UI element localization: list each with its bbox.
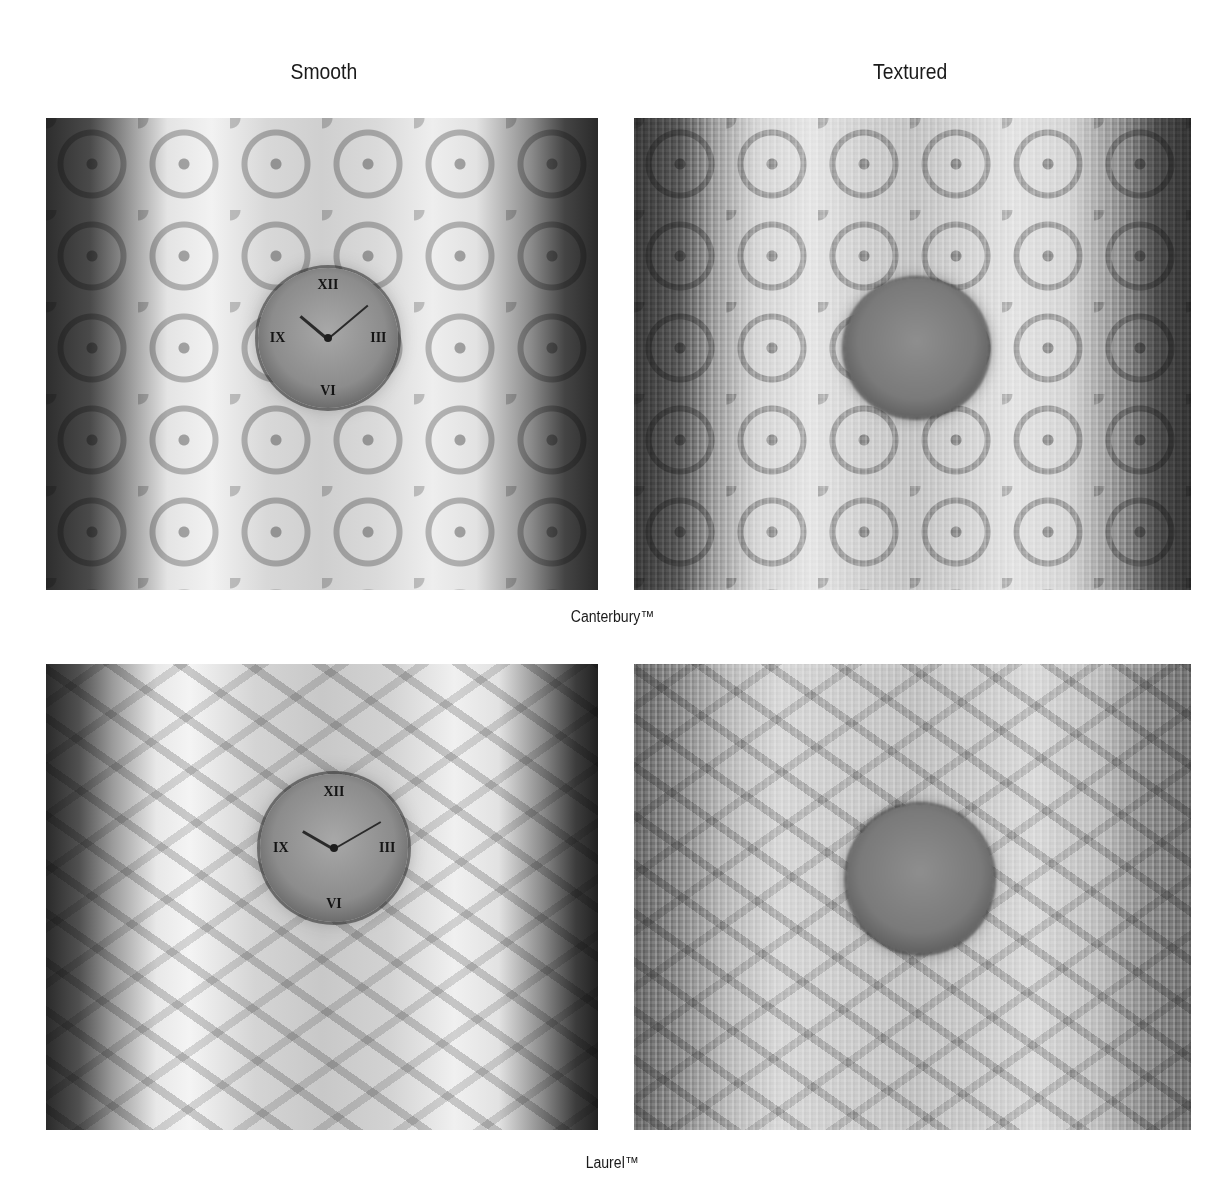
clock-numeral: XII (317, 277, 338, 293)
panel-laurel-smooth: XII III VI IX (46, 664, 598, 1130)
clock-center (324, 334, 332, 342)
clock-icon (844, 278, 989, 418)
clock-icon: XII III VI IX (260, 774, 408, 922)
clock-minute-hand (327, 305, 368, 340)
clock-icon (846, 804, 994, 954)
panel-laurel-textured (634, 664, 1191, 1130)
column-heading-textured: Textured (873, 58, 947, 86)
clock-numeral: VI (320, 383, 336, 399)
panel-canterbury-smooth: XII III VI IX (46, 118, 598, 590)
clock-numeral: III (370, 330, 386, 346)
clock-numeral: XII (323, 784, 344, 800)
column-heading-smooth: Smooth (291, 58, 358, 86)
clock-numeral: III (379, 840, 395, 856)
caption-laurel: Laurel™ (586, 1153, 639, 1173)
clock-numeral: IX (270, 330, 286, 346)
clock-minute-hand (334, 821, 382, 850)
clock-icon: XII III VI IX (258, 268, 398, 408)
clock-center (330, 844, 338, 852)
caption-canterbury: Canterbury™ (571, 607, 655, 627)
clock-numeral: IX (273, 840, 289, 856)
panel-canterbury-textured (634, 118, 1191, 590)
clock-numeral: VI (326, 896, 342, 912)
